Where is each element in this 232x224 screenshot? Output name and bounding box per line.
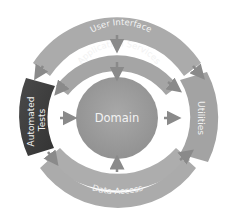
arrow-ui-to-utilities: [193, 66, 200, 74]
utilities-layer: Utilities: [180, 72, 218, 162]
onion-architecture-diagram: User Interface Application Services Auto…: [0, 0, 232, 224]
utilities-label: Utilities: [196, 101, 206, 135]
domain-label: Domain: [95, 111, 140, 125]
automated-tests-layer: Automated Tests: [19, 78, 55, 156]
domain-core: Domain: [76, 77, 158, 159]
